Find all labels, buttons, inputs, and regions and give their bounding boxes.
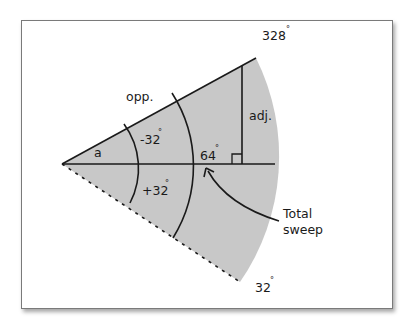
plus-32-degree: ° — [165, 179, 169, 188]
bottom-32-label: 32 — [255, 280, 271, 295]
top-328-label: 328 — [262, 28, 286, 43]
sweep-fan-sector — [62, 58, 279, 282]
total-sweep-label-line2: sweep — [283, 222, 323, 237]
adj-label: adj. — [249, 108, 272, 123]
bottom-32-degree: ° — [270, 276, 274, 285]
top-328-degree: ° — [286, 25, 290, 34]
angle-a-label: a — [94, 145, 102, 160]
sweep-angle-diagram: a opp. adj. -32 ° +32 ° 64 ° 328 ° 32 ° … — [0, 0, 416, 327]
center-64-label: 64 — [200, 148, 216, 163]
minus-32-degree: ° — [158, 128, 162, 137]
opp-label: opp. — [126, 89, 154, 104]
total-sweep-label-line1: Total — [282, 206, 312, 221]
center-64-degree: ° — [215, 144, 219, 153]
